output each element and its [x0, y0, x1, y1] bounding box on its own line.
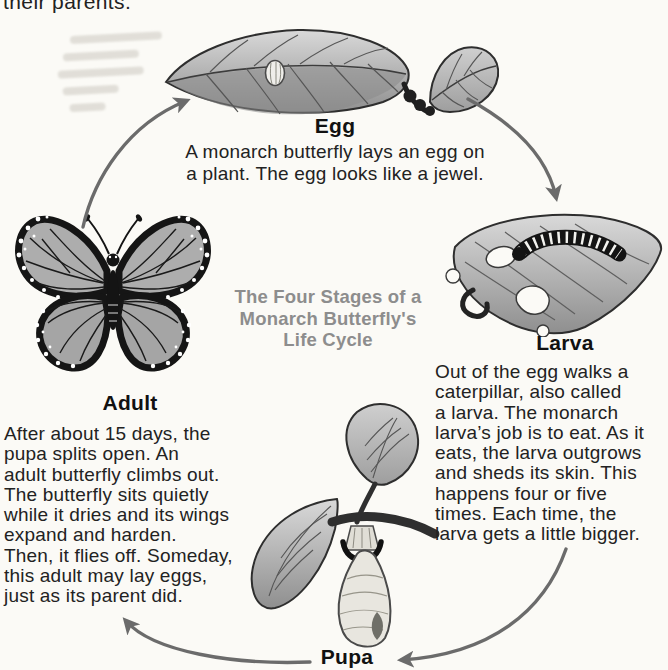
bleed-line	[63, 85, 119, 96]
adult-butterfly-illustration	[10, 203, 215, 388]
cycle-title: The Four Stages of a Monarch Butterfly's…	[212, 286, 444, 351]
larva-on-leaf-illustration	[435, 202, 668, 337]
previous-paragraph-fragment: their parents.	[3, 0, 131, 14]
larva-stage-label: Larva	[470, 331, 660, 355]
bleed-line	[63, 50, 139, 62]
pupa-stage-label: Pupa	[262, 645, 432, 669]
egg-stage-label: Egg	[160, 114, 510, 138]
pupa-illustration	[237, 394, 442, 656]
chrysalis	[339, 550, 391, 646]
bleed-line	[58, 66, 144, 78]
bleed-line	[70, 31, 162, 44]
adult-stage-caption: After about 15 days, the pupa splits ope…	[4, 424, 233, 607]
monarch-egg	[266, 61, 285, 86]
page-bleed-through	[56, 31, 166, 121]
textbook-page: their parents.	[0, 0, 668, 670]
egg-stage-caption: A monarch butterfly lays an egg on a pla…	[162, 141, 508, 184]
adult-stage-label: Adult	[25, 391, 235, 415]
larva-stage-caption: Out of the egg walks a caterpillar, also…	[435, 362, 644, 545]
bleed-line	[69, 102, 105, 112]
